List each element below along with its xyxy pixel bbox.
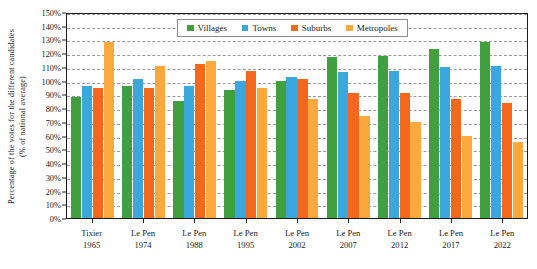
bar-metropoles-1965 — [104, 42, 114, 218]
y-axis-tick-label: 90% — [46, 91, 61, 100]
x-axis-tick-mark — [297, 219, 298, 223]
bar-suburbs-1988 — [195, 64, 205, 218]
candidate-name: Le Pen — [477, 228, 528, 240]
legend-label: Villages — [198, 23, 227, 33]
election-year: 2007 — [323, 240, 374, 252]
bar-suburbs-1995 — [246, 71, 256, 218]
bar-villages-1974 — [122, 86, 132, 218]
x-axis-labels: Tixier1965Le Pen1974Le Pen1988Le Pen1995… — [66, 219, 528, 269]
bar-metropoles-1974 — [155, 66, 165, 218]
legend-label: Towns — [252, 23, 276, 33]
election-year: 1974 — [117, 240, 168, 252]
election-year: 1995 — [220, 240, 271, 252]
bar-group — [374, 14, 425, 218]
election-year: 2002 — [271, 240, 322, 252]
y-axis-tick-label: 100% — [41, 77, 61, 86]
bar-group — [476, 14, 527, 218]
bar-villages-1988 — [173, 101, 183, 218]
candidate-name: Le Pen — [220, 228, 271, 240]
y-axis-title-line1: Percentage of the votes for the differen… — [7, 28, 18, 203]
legend-item-metropoles: Metropoles — [346, 23, 398, 33]
x-axis-group-label: Le Pen1974 — [117, 219, 168, 269]
bar-villages-1995 — [224, 90, 234, 218]
bar-metropoles-2007 — [359, 116, 369, 218]
bar-group — [271, 14, 322, 218]
bar-metropoles-2017 — [462, 136, 472, 218]
bar-towns-2012 — [389, 71, 399, 218]
candidate-name: Le Pen — [425, 228, 476, 240]
y-axis-ticks: 0%10%20%30%40%50%60%70%80%90%100%110%120… — [30, 13, 66, 219]
x-axis-tick-mark — [246, 219, 247, 223]
bar-towns-1965 — [82, 86, 92, 218]
y-axis-tick-label: 0% — [50, 215, 61, 224]
bar-towns-1995 — [235, 81, 245, 218]
bar-villages-2012 — [378, 56, 388, 218]
y-axis-tick-label: 110% — [42, 63, 61, 72]
bar-group — [425, 14, 476, 218]
bar-suburbs-2012 — [400, 93, 410, 218]
candidate-name: Le Pen — [117, 228, 168, 240]
bar-villages-2022 — [480, 42, 490, 218]
x-axis-tick-mark — [451, 219, 452, 223]
y-axis-tick-label: 50% — [46, 146, 61, 155]
candidate-name: Le Pen — [271, 228, 322, 240]
bar-suburbs-2017 — [451, 99, 461, 218]
bar-suburbs-2007 — [348, 93, 358, 218]
candidate-name: Le Pen — [374, 228, 425, 240]
legend-swatch-icon — [242, 25, 249, 32]
legend-label: Suburbs — [302, 23, 332, 33]
x-axis-tick-mark — [502, 219, 503, 223]
candidate-name: Le Pen — [169, 228, 220, 240]
bar-group — [169, 14, 220, 218]
bar-suburbs-2022 — [502, 103, 512, 218]
x-axis-group-label: Le Pen2022 — [477, 219, 528, 269]
bar-metropoles-1988 — [206, 61, 216, 218]
election-year: 1965 — [66, 240, 117, 252]
x-axis-tick-mark — [143, 219, 144, 223]
bar-chart: Percentage of the votes for the differen… — [0, 0, 537, 269]
bar-group — [118, 14, 169, 218]
x-axis-tick-mark — [194, 219, 195, 223]
legend: VillagesTownsSuburbsMetropoles — [177, 19, 408, 37]
x-axis-group-label: Le Pen1988 — [169, 219, 220, 269]
y-axis-tick-label: 60% — [46, 132, 61, 141]
bar-towns-2007 — [338, 72, 348, 218]
election-year: 2012 — [374, 240, 425, 252]
x-axis-tick-mark — [348, 219, 349, 223]
y-axis-tick-label: 30% — [46, 173, 61, 182]
legend-item-towns: Towns — [242, 23, 276, 33]
y-axis-tick-label: 130% — [41, 36, 61, 45]
plot-area — [66, 13, 528, 219]
bar-villages-2017 — [429, 49, 439, 218]
bar-towns-2002 — [286, 77, 296, 218]
bar-towns-2022 — [491, 66, 501, 218]
election-year: 2022 — [477, 240, 528, 252]
bar-group — [323, 14, 374, 218]
y-axis-tick-label: 70% — [46, 118, 61, 127]
bar-metropoles-2002 — [308, 99, 318, 218]
y-axis-tick-label: 120% — [41, 50, 61, 59]
bar-metropoles-1995 — [257, 88, 267, 218]
y-axis-title-line2: (% of national average) — [17, 28, 28, 203]
x-axis-tick-mark — [400, 219, 401, 223]
election-year: 1988 — [169, 240, 220, 252]
y-axis-tick-label: 80% — [46, 105, 61, 114]
legend-swatch-icon — [187, 25, 194, 32]
bars-layer — [67, 14, 527, 218]
x-axis-group-label: Le Pen2012 — [374, 219, 425, 269]
legend-label: Metropoles — [357, 23, 398, 33]
election-year: 2017 — [425, 240, 476, 252]
bar-towns-1974 — [133, 79, 143, 218]
x-axis-tick-mark — [92, 219, 93, 223]
y-axis-title: Percentage of the votes for the differen… — [0, 0, 34, 232]
legend-item-suburbs: Suburbs — [291, 23, 331, 33]
y-axis-tick-label: 150% — [41, 9, 61, 18]
x-axis-group-label: Le Pen2017 — [425, 219, 476, 269]
bar-suburbs-1965 — [93, 88, 103, 218]
candidate-name: Le Pen — [323, 228, 374, 240]
x-axis-group-label: Le Pen2007 — [323, 219, 374, 269]
bar-group — [220, 14, 271, 218]
bar-suburbs-2002 — [297, 79, 307, 218]
bar-metropoles-2012 — [410, 122, 420, 218]
bar-group — [67, 14, 118, 218]
